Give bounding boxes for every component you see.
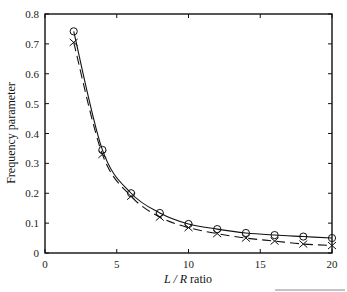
cross-marker: [156, 214, 164, 221]
y-tick-label: 0.5: [25, 98, 39, 110]
y-axis-label: Frequency parameter: [4, 82, 18, 184]
y-tick-label: 0.3: [25, 157, 39, 169]
cross-marker: [98, 151, 106, 158]
y-tick-label: 0.8: [25, 8, 39, 20]
x-tick-label: 5: [114, 258, 120, 270]
y-tick-label: 0.7: [25, 38, 39, 50]
plot-frame: [45, 14, 332, 253]
cross-marker: [185, 224, 193, 231]
x-axis-label-italic: L / R: [163, 272, 188, 286]
solid-circle-line: [74, 31, 332, 238]
x-tick-label: 20: [327, 258, 339, 270]
dashed-cross-line: [74, 42, 332, 245]
x-tick-label: 15: [255, 258, 267, 270]
axis-ticks: 0510152000.10.20.30.40.50.60.70.8: [25, 8, 338, 270]
x-tick-label: 10: [183, 258, 195, 270]
data-series: [70, 28, 336, 249]
frequency-chart: 0510152000.10.20.30.40.50.60.70.8 Freque…: [0, 0, 347, 292]
y-tick-label: 0.6: [25, 68, 39, 80]
y-tick-label: 0.1: [25, 217, 39, 229]
x-tick-label: 0: [42, 258, 48, 270]
x-axis-label: L / R ratio: [163, 272, 212, 286]
y-tick-label: 0: [34, 247, 40, 259]
y-tick-label: 0.4: [25, 128, 39, 140]
y-tick-label: 0.2: [25, 187, 39, 199]
x-axis-label-plain: ratio: [187, 272, 212, 286]
